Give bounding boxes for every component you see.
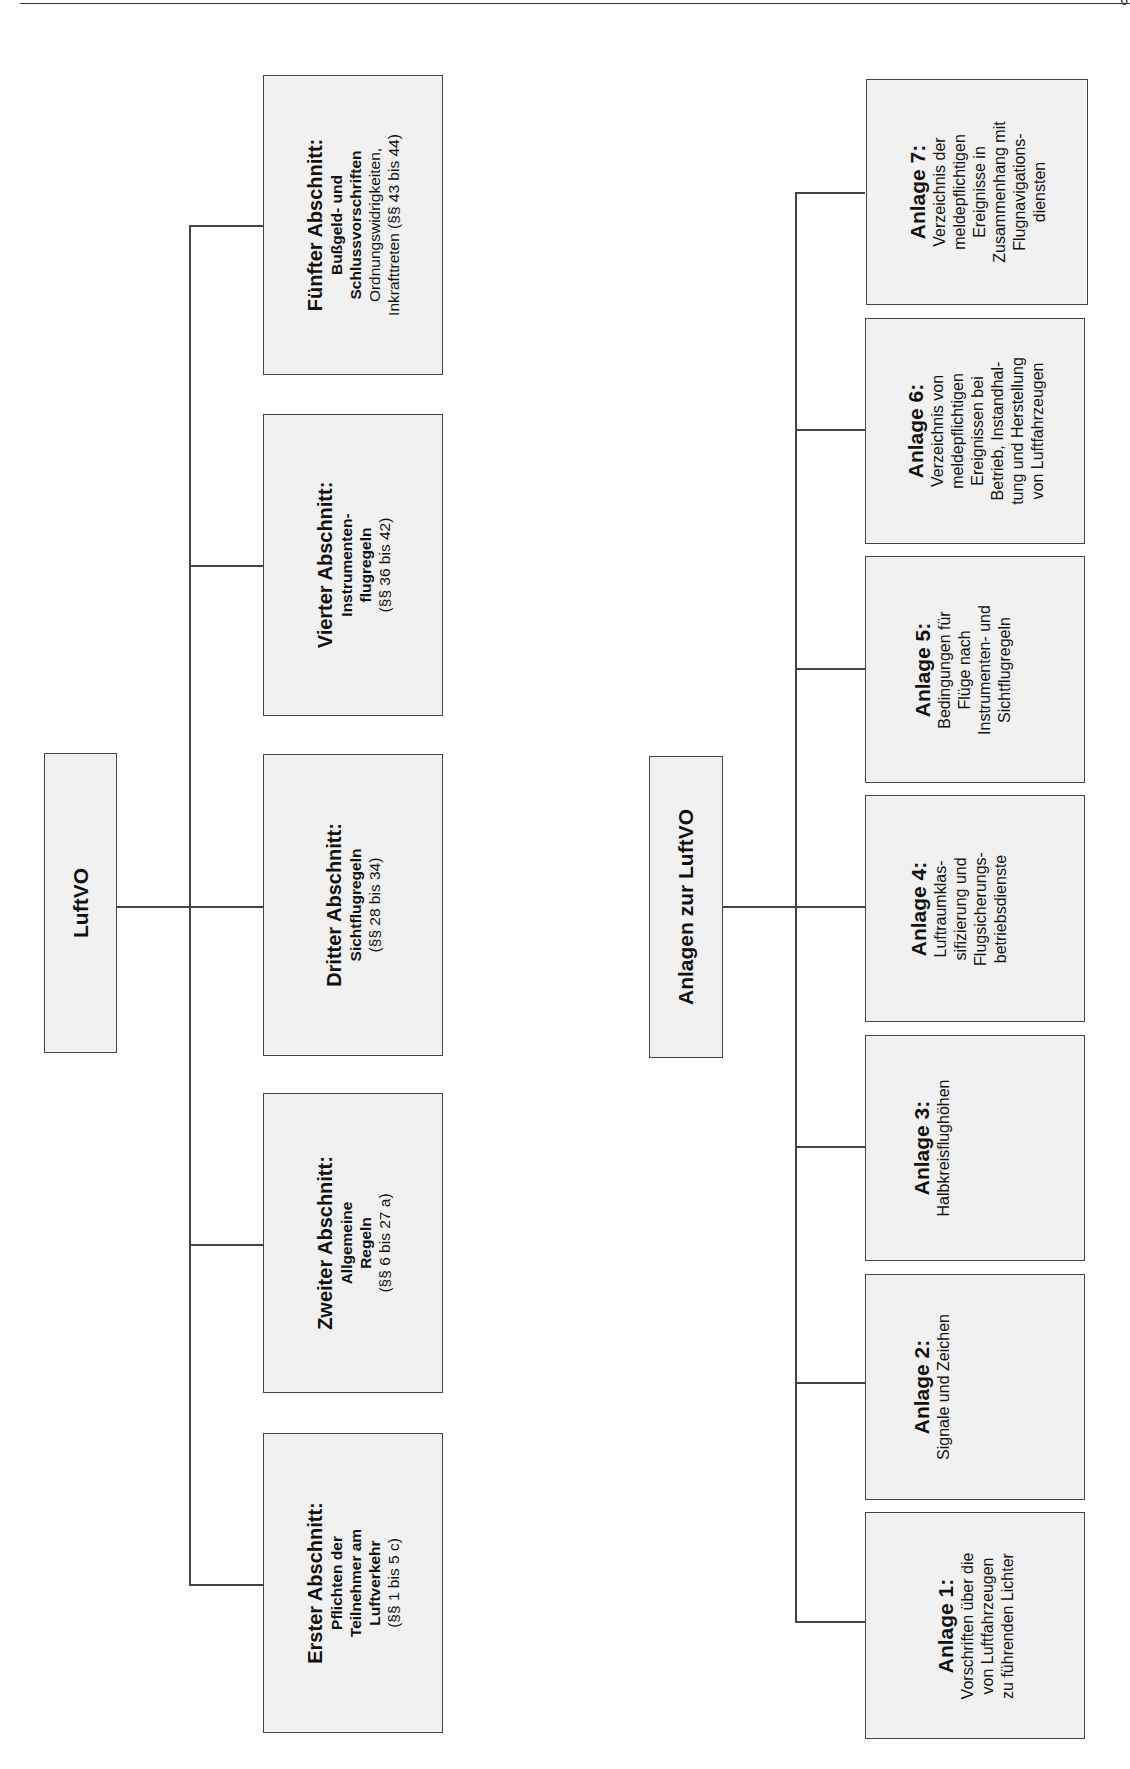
section-title: Vierter Abschnitt: <box>313 482 337 649</box>
anlage-text-4: Anlage 4: Luftraumklas- sifizierung und … <box>905 852 1010 966</box>
anlage-description: von Luftfahrzeugen <box>978 1552 998 1699</box>
anlage-title: Anlage 4: <box>905 852 930 966</box>
anlage-description: von Luftfahrzeugen <box>1028 357 1048 505</box>
anlage-box-1: Anlage 1: Vorschriften über die von Luft… <box>865 1512 1085 1739</box>
anlage-box-4: Anlage 4: Luftraumklas- sifizierung und … <box>865 795 1085 1022</box>
anlage-description: Flugnavigations- <box>1010 121 1030 262</box>
section-paragraph-range: (§§ 36 bis 42) <box>375 482 394 649</box>
root-label: LuftVO <box>69 868 93 938</box>
section-paragraph-range: (§§ 28 bis 34) <box>365 823 384 987</box>
anlage-text-2: Anlage 2: Signale und Zeichen <box>909 1314 954 1460</box>
anlage-description: zu führenden Lichter <box>998 1552 1018 1699</box>
section-text-2: Zweiter Abschnitt: Allgemeine Regeln (§§… <box>313 1156 394 1330</box>
section-title: Erster Abschnitt: <box>303 1502 327 1664</box>
section-text-4: Vierter Abschnitt: Instrumenten- flugreg… <box>313 482 394 649</box>
connector-tree1-branch-1 <box>189 1584 263 1586</box>
section-subtitle: Pflichten der <box>327 1502 346 1664</box>
anlage-description: betriebsdienste <box>990 852 1010 966</box>
anlage-description: Flüge nach <box>954 605 974 735</box>
connector-tree2-branch-3 <box>795 1146 865 1148</box>
section-box-2: Zweiter Abschnitt: Allgemeine Regeln (§§… <box>263 1093 443 1393</box>
connector-tree2-branch-7 <box>795 192 865 194</box>
anlage-text-6: Anlage 6: Verzeichnis von meldepflichtig… <box>903 357 1048 505</box>
anlage-description: Bedingungen für <box>934 605 954 735</box>
section-box-1: Erster Abschnitt: Pflichten der Teilnehm… <box>263 1433 443 1733</box>
anlage-box-6: Anlage 6: Verzeichnis von meldepflichtig… <box>865 318 1085 544</box>
anlage-description: Vorschriften über die <box>958 1552 978 1699</box>
anlage-description: sifizierung und <box>950 852 970 966</box>
anlage-description: Flugsicherungs- <box>970 852 990 966</box>
connector-root1-horizontal <box>116 906 190 908</box>
section-title: Zweiter Abschnitt: <box>313 1156 337 1330</box>
anlage-description: meldepflichtigen <box>948 357 968 505</box>
anlage-description: Luftraumklas- <box>930 852 950 966</box>
section-box-4: Vierter Abschnitt: Instrumenten- flugreg… <box>263 414 443 716</box>
anlage-description: Sichtflugregeln <box>994 605 1014 735</box>
anlage-description: Instrumenten- und <box>974 605 994 735</box>
anlage-title: Anlage 1: <box>933 1552 958 1699</box>
section-title: Fünfter Abschnitt: <box>303 134 327 316</box>
section-subtitle: Sichtflugregeln <box>346 823 365 987</box>
anlage-text-7: Anlage 7: Verzeichnis der meldepflichtig… <box>905 121 1050 262</box>
connector-tree1-branch-2 <box>189 1244 263 1246</box>
section-subtitle: Schlussvorschriften <box>346 134 365 316</box>
section-text-3: Dritter Abschnitt: Sichtflugregeln (§§ 2… <box>322 823 384 987</box>
section-title: Dritter Abschnitt: <box>322 823 346 987</box>
section-subtitle: Regeln <box>356 1156 375 1330</box>
header-rule <box>20 3 1130 4</box>
anlage-title: Anlage 6: <box>903 357 928 505</box>
connector-tree1-branch-5 <box>189 225 263 227</box>
section-subtitle: Luftverkehr <box>365 1502 384 1664</box>
section-subtitle: Teilnehmer am <box>346 1502 365 1664</box>
anlage-description: Verzeichnis von <box>928 357 948 505</box>
connector-tree2-branch-5 <box>795 668 865 670</box>
anlage-title: Anlage 5: <box>909 605 934 735</box>
anlage-box-2: Anlage 2: Signale und Zeichen <box>865 1274 1085 1500</box>
section-paragraph-range: Ordnungswidrigkeiten, <box>365 134 384 316</box>
section-paragraph-range: (§§ 1 bis 5 c) <box>384 1502 403 1664</box>
page-number: 6 <box>1120 0 1128 8</box>
anlage-text-3: Anlage 3: Halbkreisflughöhen <box>909 1080 954 1217</box>
anlage-title: Anlage 7: <box>905 121 930 262</box>
connector-tree2-branch-6 <box>795 429 865 431</box>
root-box-luftvo: LuftVO <box>44 753 117 1053</box>
section-subtitle: Allgemeine <box>337 1156 356 1330</box>
anlage-title: Anlage 3: <box>909 1080 934 1217</box>
section-paragraph-range: (§§ 6 bis 27 a) <box>375 1156 394 1330</box>
anlage-description: Signale und Zeichen <box>934 1314 954 1460</box>
anlage-description: Betrieb, Instandhal- <box>988 357 1008 505</box>
anlage-box-3: Anlage 3: Halbkreisflughöhen <box>865 1035 1085 1261</box>
anlage-description: diensten <box>1030 121 1050 262</box>
anlage-description: Ereignisse in <box>970 121 990 262</box>
section-subtitle: Instrumenten- <box>337 482 356 649</box>
anlage-text-5: Anlage 5: Bedingungen für Flüge nach Ins… <box>909 605 1014 735</box>
anlage-description: Zusammenhang mit <box>990 121 1010 262</box>
section-text-5: Fünfter Abschnitt: Bußgeld- und Schlussv… <box>303 134 403 316</box>
anlage-description: Halbkreisflughöhen <box>934 1080 954 1217</box>
section-subtitle: Bußgeld- und <box>327 134 346 316</box>
anlage-box-5: Anlage 5: Bedingungen für Flüge nach Ins… <box>865 556 1085 783</box>
connector-root2-horizontal <box>722 906 796 908</box>
anlage-description: Verzeichnis der <box>930 121 950 262</box>
connector-tree2-branch-4 <box>795 906 865 908</box>
root-label: Anlagen zur LuftVO <box>674 809 698 1005</box>
section-text-1: Erster Abschnitt: Pflichten der Teilnehm… <box>303 1502 403 1664</box>
anlage-description: meldepflichtigen <box>950 121 970 262</box>
section-box-5: Fünfter Abschnitt: Bußgeld- und Schlussv… <box>263 75 443 375</box>
anlage-title: Anlage 2: <box>909 1314 934 1460</box>
connector-tree2-branch-1 <box>795 1621 865 1623</box>
anlage-text-1: Anlage 1: Vorschriften über die von Luft… <box>933 1552 1018 1699</box>
connector-tree1-spine <box>189 225 191 1585</box>
connector-tree2-branch-2 <box>795 1382 865 1384</box>
section-paragraph-range: Inkrafttreten (§§ 43 bis 44) <box>384 134 403 316</box>
connector-tree1-branch-3 <box>189 906 263 908</box>
connector-tree1-branch-4 <box>189 565 263 567</box>
section-box-3: Dritter Abschnitt: Sichtflugregeln (§§ 2… <box>263 754 443 1056</box>
anlage-box-7: Anlage 7: Verzeichnis der meldepflichtig… <box>866 79 1088 305</box>
anlage-description: tung und Herstellung <box>1008 357 1028 505</box>
root-box-anlagen: Anlagen zur LuftVO <box>649 756 723 1058</box>
section-subtitle: flugregeln <box>356 482 375 649</box>
anlage-description: Ereignissen bei <box>968 357 988 505</box>
